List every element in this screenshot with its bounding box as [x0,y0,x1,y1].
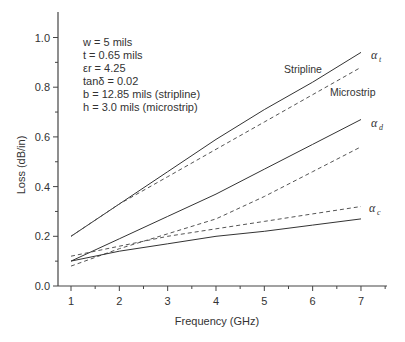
svg-text:α: α [371,116,378,130]
alpha-d-label: α d [371,116,384,132]
y-ticks: 0.00.20.40.60.81.0 [35,32,58,293]
x-tick-label: 7 [358,295,364,307]
svg-text:d: d [379,123,384,132]
y-tick-label: 0.0 [35,280,50,292]
param-t: t = 0.65 mils [83,49,143,61]
y-tick-label: 0.2 [35,230,50,242]
y-tick-label: 0.6 [35,131,50,143]
alpha-c-label: α c [369,201,381,217]
x-tick-label: 1 [68,295,74,307]
svg-text:α: α [369,201,376,215]
svg-text:c: c [377,208,381,217]
param-w: w = 5 mils [82,36,133,48]
param-er: εr = 4.25 [83,62,126,74]
param-h: h = 3.0 mils (microstrip) [83,101,198,113]
x-tick-label: 6 [310,295,316,307]
x-axis-label: Frequency (GHz) [175,315,259,327]
x-ticks: 1234567 [68,286,385,307]
svg-text:α: α [371,48,378,62]
param-b: b = 12.85 mils (stripline) [83,88,200,100]
y-tick-label: 1.0 [35,32,50,44]
x-tick-label: 2 [116,295,122,307]
microstrip-alpha-d-line [71,147,361,266]
y-tick-label: 0.8 [35,81,50,93]
stripline-alpha-c-line [71,219,361,261]
x-tick-label: 4 [213,295,219,307]
stripline-label: Stripline [284,63,322,75]
alpha-t-label: α t [371,48,382,64]
y-tick-label: 0.4 [35,181,50,193]
loss-vs-frequency-chart: 0.00.20.40.60.81.0 1234567 Frequency (GH… [0,0,405,342]
param-tand: tanδ = 0.02 [83,75,138,87]
microstrip-alpha-c-line [71,207,361,257]
x-tick-label: 5 [261,295,267,307]
y-axis-label: Loss (dB/in) [15,136,27,195]
stripline-alpha-d-line [71,120,361,262]
svg-text:t: t [379,55,382,64]
microstrip-label: Microstrip [330,86,376,98]
x-tick-label: 3 [165,295,171,307]
parameter-annotations: w = 5 mils t = 0.65 mils εr = 4.25 tanδ … [82,36,200,113]
